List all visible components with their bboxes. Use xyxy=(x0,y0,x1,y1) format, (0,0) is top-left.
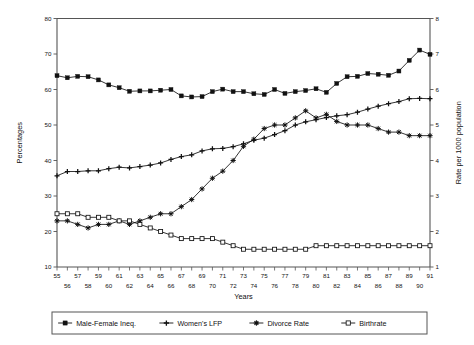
marker-open-square xyxy=(366,244,370,248)
x-tick-label-upper: 73 xyxy=(240,272,247,279)
marker-asterisk xyxy=(210,176,215,181)
marker-open-square xyxy=(262,247,266,251)
marker-filled-square xyxy=(76,74,80,78)
y-tick-label-left: 60 xyxy=(45,86,52,93)
legend-label: Divorce Rate xyxy=(267,319,309,328)
marker-open-square xyxy=(252,247,256,251)
x-tick-label-lower: 80 xyxy=(313,282,320,289)
marker-asterisk xyxy=(282,122,287,127)
x-tick-label-lower: 56 xyxy=(64,282,71,289)
x-tick-label-lower: 90 xyxy=(416,282,423,289)
marker-plus xyxy=(117,165,122,170)
marker-open-square xyxy=(107,215,111,219)
x-tick-label-upper: 67 xyxy=(178,272,185,279)
marker-open-square xyxy=(242,247,246,251)
marker-asterisk xyxy=(313,115,318,120)
marker-asterisk xyxy=(199,186,204,191)
marker-asterisk xyxy=(75,222,80,227)
marker-filled-square xyxy=(407,58,411,62)
legend-item-birthrate[interactable]: Birthrate xyxy=(341,319,386,328)
y-axis-left: 1020304050607080Percentages xyxy=(15,15,57,271)
marker-open-square xyxy=(190,237,194,241)
marker-asterisk xyxy=(293,115,298,120)
marker-plus xyxy=(179,154,184,159)
marker-filled-square xyxy=(387,73,391,77)
marker-filled-square xyxy=(366,72,370,76)
marker-asterisk xyxy=(251,137,256,142)
marker-plus xyxy=(127,165,132,170)
y-tick-label-right: 6 xyxy=(436,86,440,93)
marker-open-square xyxy=(273,247,277,251)
x-tick-label-lower: 76 xyxy=(271,282,278,289)
x-tick-label-lower: 64 xyxy=(147,282,154,289)
marker-asterisk xyxy=(106,222,111,227)
marker-open-square xyxy=(418,244,422,248)
x-tick-label-lower: 70 xyxy=(209,282,216,289)
legend-label: Male-Female Ineq. xyxy=(76,319,136,328)
y-axis-title-right: Rate per 1000 population xyxy=(454,101,463,184)
marker-asterisk xyxy=(262,126,267,131)
marker-open-square xyxy=(76,212,80,216)
x-tick-label-upper: 65 xyxy=(157,272,164,279)
marker-asterisk xyxy=(376,126,381,131)
marker-asterisk xyxy=(158,211,163,216)
marker-filled-square xyxy=(314,87,318,91)
y-tick-label-left: 40 xyxy=(45,157,52,164)
marker-open-square xyxy=(376,244,380,248)
marker-open-square xyxy=(304,247,308,251)
legend-item-women-s-lfp[interactable]: Women's LFP xyxy=(159,319,222,328)
marker-open-square xyxy=(283,247,287,251)
marker-open-square xyxy=(387,244,391,248)
marker-open-square xyxy=(397,244,401,248)
marker-asterisk xyxy=(334,119,339,124)
y-tick-label-left: 80 xyxy=(45,15,52,22)
marker-open-square xyxy=(159,230,163,234)
x-tick-label-upper: 81 xyxy=(323,272,330,279)
x-tick-label-upper: 75 xyxy=(261,272,268,279)
x-tick-label-lower: 72 xyxy=(230,282,237,289)
marker-open-square xyxy=(148,226,152,230)
marker-asterisk xyxy=(189,197,194,202)
marker-filled-square xyxy=(138,89,142,93)
marker-asterisk xyxy=(396,130,401,135)
y-tick-label-left: 50 xyxy=(45,121,52,128)
marker-filled-square xyxy=(179,94,183,98)
marker-filled-square xyxy=(190,95,194,99)
marker-open-square xyxy=(138,222,142,226)
x-tick-label-upper: 55 xyxy=(54,272,61,279)
marker-asterisk xyxy=(65,218,70,223)
marker-asterisk xyxy=(179,204,184,209)
legend-item-divorce-rate[interactable]: Divorce Rate xyxy=(249,319,309,328)
marker-filled-square xyxy=(117,86,121,90)
x-tick-label-lower: 86 xyxy=(375,282,382,289)
marker-filled-square xyxy=(63,321,67,325)
x-tick-label-upper: 87 xyxy=(385,272,392,279)
x-tick-label-lower: 58 xyxy=(85,282,92,289)
marker-open-square xyxy=(210,237,214,241)
marker-plus xyxy=(86,168,91,173)
x-tick-label-lower: 60 xyxy=(105,282,112,289)
marker-filled-square xyxy=(107,83,111,87)
marker-asterisk xyxy=(417,133,422,138)
y-tick-label-right: 4 xyxy=(436,157,440,164)
marker-filled-square xyxy=(169,88,173,92)
marker-plus xyxy=(210,146,215,151)
marker-filled-square xyxy=(128,89,132,93)
marker-asterisk xyxy=(427,133,432,138)
marker-open-square xyxy=(231,244,235,248)
marker-plus xyxy=(168,157,173,162)
marker-filled-square xyxy=(242,90,246,94)
marker-plus xyxy=(96,168,101,173)
series-male-female-ineq xyxy=(55,48,432,99)
marker-filled-square xyxy=(273,88,277,92)
marker-plus xyxy=(355,110,360,115)
marker-filled-square xyxy=(65,76,69,80)
x-tick-label-lower: 74 xyxy=(250,282,257,289)
marker-asterisk xyxy=(386,130,391,135)
marker-plus xyxy=(200,148,205,153)
marker-open-square xyxy=(293,247,297,251)
marker-plus xyxy=(55,173,60,178)
legend-item-male-female-ineq[interactable]: Male-Female Ineq. xyxy=(58,319,136,328)
marker-plus xyxy=(345,112,350,117)
marker-filled-square xyxy=(397,69,401,73)
